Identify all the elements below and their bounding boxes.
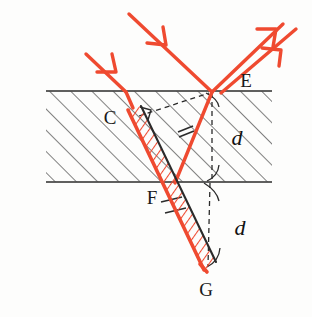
incident-ray-right-arrowhead — [147, 27, 166, 45]
label-distance-upper-d: d — [232, 125, 244, 150]
label-point-f: F — [147, 187, 158, 208]
optics-diagram-figure: C E F G d d — [0, 0, 312, 317]
label-distance-lower-d: d — [235, 215, 247, 240]
arc-bracket-lower-top — [204, 183, 219, 201]
incident-ray-right — [129, 14, 212, 92]
label-point-c: C — [104, 107, 117, 128]
label-point-g: G — [199, 279, 213, 300]
optics-diagram-canvas: C E F G d d — [0, 0, 312, 317]
label-point-e: E — [240, 70, 252, 91]
outgoing-ray-outer — [221, 29, 296, 93]
